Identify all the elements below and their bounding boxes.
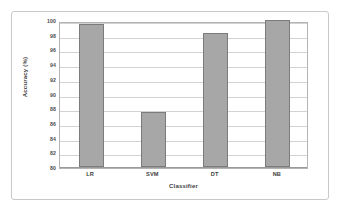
y-tick-label: 96	[34, 49, 56, 54]
x-tick-label-svm: SVM	[146, 172, 159, 178]
y-tick-label: 94	[34, 63, 56, 68]
y-tick-label: 84	[34, 137, 56, 142]
y-axis-tick-labels: 10098969492908886848280	[28, 22, 56, 169]
y-tick-label: 82	[34, 152, 56, 157]
y-tick-label: 98	[34, 34, 56, 39]
y-tick-label: 86	[34, 122, 56, 127]
x-tick-label-lr: LR	[86, 172, 94, 178]
chart-figure: Accuracy (%) 10098969492908886848280 LRS…	[11, 11, 329, 200]
y-tick-label: 92	[34, 78, 56, 83]
bar-lr	[79, 24, 104, 167]
y-tick-label: 88	[34, 108, 56, 113]
y-tick-label: 90	[34, 93, 56, 98]
bar-dt	[203, 33, 228, 167]
y-tick-label: 100	[34, 19, 56, 24]
x-axis-title: Classifier	[59, 183, 308, 189]
x-axis-baseline	[60, 167, 307, 168]
y-tick-label: 80	[34, 166, 56, 171]
x-tick-label-nb: NB	[273, 172, 281, 178]
bar-svm	[141, 112, 166, 167]
x-tick-label-dt: DT	[211, 172, 219, 178]
plot-area	[59, 22, 308, 169]
bar-nb	[265, 20, 290, 167]
